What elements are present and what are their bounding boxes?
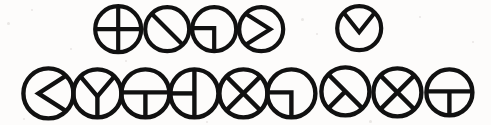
symbol-chart-canvas <box>0 0 491 125</box>
symbol-circle-right-pointing-wedge <box>233 1 289 57</box>
paper-speck <box>316 33 318 35</box>
paper-speck <box>301 18 304 21</box>
symbol-circle-full-cross-x <box>367 62 428 123</box>
symbol-circle-lower-left-quadrant-corner <box>261 63 322 124</box>
symbol-circle-down-pointing-wedge <box>331 0 387 56</box>
paper-speck <box>70 48 72 50</box>
paper-speck <box>419 16 421 18</box>
paper-speck <box>472 41 474 43</box>
paper-speck <box>31 9 33 11</box>
symbol-circle-inverted-tee-horizontal-diameter <box>420 63 479 122</box>
paper-speck <box>7 22 10 25</box>
